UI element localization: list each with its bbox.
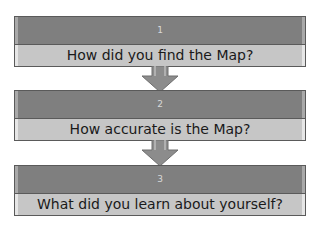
step-2-number: 2 [14,90,306,118]
down-arrow-icon [140,140,180,166]
step-3-number: 3 [14,165,306,193]
step-2: 2 How accurate is the Map? [14,90,306,141]
step-2-text: How accurate is the Map? [14,118,306,141]
step-1-text: How did you find the Map? [14,44,306,67]
step-3-text: What did you learn about yourself? [14,193,306,216]
step-3: 3 What did you learn about yourself? [14,165,306,216]
step-1-number: 1 [14,16,306,44]
down-arrow-icon [140,66,180,92]
step-1: 1 How did you find the Map? [14,16,306,67]
